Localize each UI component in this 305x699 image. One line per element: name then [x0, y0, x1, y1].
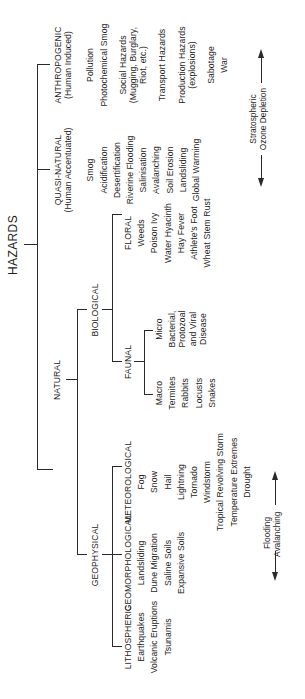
list-item: Rabbits	[180, 376, 190, 409]
level1-bar	[37, 64, 38, 470]
anthropogenic-label: ANTHROPOGENIC	[53, 23, 63, 106]
root-stem	[24, 244, 37, 245]
geomorphological-drop	[112, 554, 122, 555]
micro-label: Micro	[154, 310, 164, 347]
natural-label: NATURAL	[52, 360, 62, 400]
biological-label: BIOLOGICAL	[90, 283, 100, 336]
biological-node: BIOLOGICAL	[90, 283, 100, 336]
list-item: Smog	[85, 127, 95, 212]
list-item: Poison Ivy	[149, 199, 159, 268]
list-item: Termites	[167, 376, 177, 409]
list-item: Sabotage	[206, 23, 216, 106]
natural-quasi-spectrum-arrow: Flooding Avalanching	[262, 471, 288, 581]
list-item: Acidification	[99, 127, 109, 212]
list-item: Dune Migration	[149, 515, 159, 612]
stratospheric-label: Stratospheric	[248, 83, 258, 155]
list-item: Athlete's Foot	[189, 199, 199, 268]
anthropogenic-sublabel: (Human Induced)	[63, 23, 73, 106]
arrow-right-icon	[258, 49, 264, 58]
list-item: and Viral	[188, 310, 198, 347]
root-label: HAZARDS	[8, 215, 18, 275]
arrow-right-icon	[272, 471, 278, 480]
meteorological-drop	[112, 466, 122, 467]
geomorphological-node: GEOMORPHOLOGICAL Landsliding Dune Migrat…	[123, 515, 186, 612]
natural-drop	[37, 469, 53, 470]
macro-label: Macro	[154, 376, 164, 409]
list-item: Volcanic Eruptions	[149, 601, 159, 674]
list-item: Snakes	[207, 376, 217, 409]
list-item: Tsunamis	[163, 601, 173, 674]
natural-node: NATURAL	[52, 360, 62, 400]
natural-bar	[77, 309, 78, 555]
list-item: Windstorm	[202, 433, 212, 531]
arrow-left-icon	[272, 572, 278, 581]
list-item: Protozoal	[177, 310, 187, 347]
list-item: Temperature Extremes	[229, 433, 239, 531]
lithospheric-drop	[112, 646, 122, 647]
lithospheric-node: LITHOSPHERIC Earthquakes Volcanic Erupti…	[123, 601, 173, 674]
list-item: (explosions)	[187, 23, 197, 106]
list-item: Pollution	[85, 23, 95, 106]
faunal-drop	[112, 361, 122, 362]
list-item: Water Hyacinth	[163, 199, 173, 268]
list-item: Production Hazards	[177, 23, 187, 106]
hazards-classification-diagram: HAZARDS ANTHROPOGENIC (Human Induced) Po…	[0, 0, 305, 699]
floral-drop	[112, 214, 122, 215]
arrow-shaft-right	[261, 57, 262, 83]
natural-stem	[66, 379, 77, 380]
avalanching-label: Avalanching	[272, 505, 282, 557]
list-item: Earthquakes	[136, 601, 146, 674]
list-item: Riot, etc.)	[138, 23, 148, 106]
list-item: Locusts	[194, 376, 204, 409]
list-item: Expansive Soils	[176, 515, 186, 612]
faunal-node: FAUNAL	[123, 345, 133, 379]
list-item: Photochemical Smog	[99, 23, 109, 106]
faunal-bar	[144, 331, 145, 395]
ozone-depletion-label: Ozone Depletion	[258, 83, 268, 155]
arrow-shaft-right	[275, 479, 276, 505]
geophysical-stem	[102, 554, 112, 555]
root-node: HAZARDS	[8, 215, 18, 275]
flooding-label: Flooding	[262, 505, 272, 549]
biological-stem	[102, 309, 112, 310]
faunal-label: FAUNAL	[123, 345, 133, 379]
list-item: Disease	[198, 310, 208, 347]
quasi-natural-drop	[37, 169, 50, 170]
geophysical-drop	[77, 554, 87, 555]
list-item: Tropical Revolving Storm	[215, 433, 225, 531]
list-item: War	[219, 23, 229, 106]
micro-drop	[144, 330, 153, 331]
biological-bar	[112, 214, 113, 362]
list-item: Weeds	[136, 199, 146, 268]
macro-drop	[144, 394, 153, 395]
quasi-anthropogenic-spectrum-arrow: Stratospheric Ozone Depletion	[248, 49, 274, 187]
anthropogenic-drop	[37, 64, 50, 65]
arrow-shaft-left	[261, 155, 262, 179]
list-item: (Mugging, Burglary,	[128, 23, 138, 106]
list-item: Hay Fever	[176, 199, 186, 268]
list-item: Drought	[242, 433, 252, 531]
biological-drop	[77, 309, 87, 310]
list-item: Wheat Stem Rust	[202, 199, 212, 268]
list-item: Bacterial,	[167, 310, 177, 347]
geophysical-bar	[112, 466, 113, 647]
list-item: Landsliding	[136, 515, 146, 612]
list-item: Tornado	[189, 433, 199, 531]
lithospheric-label: LITHOSPHERIC	[123, 601, 133, 674]
list-item: Social Hazards	[118, 23, 128, 106]
quasi-natural-label: QUASI-NATURAL	[53, 127, 63, 212]
macro-node: Macro Termites Rabbits Locusts Snakes	[154, 376, 217, 409]
quasi-natural-sublabel: (Human Accentuated)	[63, 127, 73, 212]
micro-node: Micro Bacterial, Protozoal and Viral Dis…	[154, 310, 208, 347]
anthropogenic-node: ANTHROPOGENIC (Human Induced) Pollution …	[53, 23, 229, 106]
geophysical-label: GEOPHYSICAL	[90, 524, 100, 587]
list-item: Desertification	[112, 127, 122, 212]
geophysical-node: GEOPHYSICAL	[90, 524, 100, 587]
floral-label: FLORAL	[123, 199, 133, 268]
natural-gap	[37, 379, 52, 380]
list-item: Saline Soils	[163, 515, 173, 612]
faunal-stem	[134, 361, 144, 362]
geomorphological-label: GEOMORPHOLOGICAL	[123, 515, 133, 612]
floral-node: FLORAL Weeds Poison Ivy Water Hyacinth H…	[123, 199, 212, 268]
list-item: Transport Hazards	[157, 23, 167, 106]
